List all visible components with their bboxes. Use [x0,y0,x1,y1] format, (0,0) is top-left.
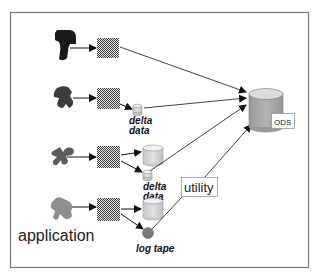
database-cylinder-4 [143,198,163,220]
processor-box-4 [97,198,120,221]
processor-box-3 [97,146,120,168]
delta-data-label-1b: data [129,125,150,136]
delta-data-cylinder-2 [143,170,152,181]
database-cylinder-3 [143,145,163,166]
log-tape-label: log tape [136,243,175,254]
diagram-canvas: delta data delta data log tape applicati… [0,0,322,277]
processor-box-1 [97,38,119,58]
log-tape-icon [143,228,154,239]
processor-box-2 [97,88,120,109]
ods-label: ODS [274,118,291,127]
utility-label: utility [184,180,214,195]
application-label: application [18,227,95,244]
